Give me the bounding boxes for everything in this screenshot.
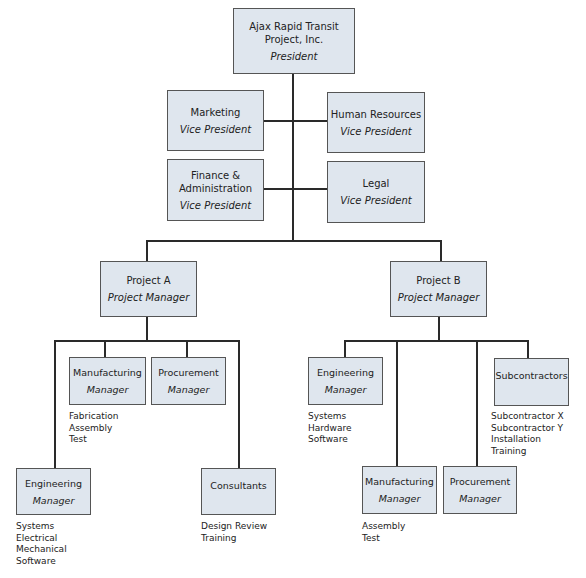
node-project-a: Project A Project Manager — [100, 261, 197, 317]
node-project-b: Project B Project Manager — [390, 261, 487, 317]
notes-b-subcontractors: Subcontractor X Subcontractor Y Installa… — [491, 411, 564, 457]
node-b-manufacturing: Manufacturing Manager — [362, 466, 437, 514]
connector-b-sub — [527, 340, 529, 358]
note-item: Assembly — [362, 521, 405, 533]
node-a-engineering: Engineering Manager — [16, 468, 91, 515]
notes-b-manufacturing: Assembly Test — [362, 521, 405, 544]
connector-b-stem — [438, 316, 440, 341]
node-role: President — [270, 50, 317, 63]
node-name: Human Resources — [331, 108, 421, 121]
node-name: Subcontractors — [495, 369, 567, 382]
connector-a-eng — [54, 340, 56, 468]
note-item: Test — [362, 533, 405, 545]
connector-b-bar — [344, 340, 529, 342]
node-name: Legal — [363, 177, 390, 190]
connector-project-bar — [146, 240, 442, 242]
note-item: Mechanical — [16, 544, 67, 556]
node-b-procurement: Procurement Manager — [443, 466, 517, 514]
note-item: Systems — [308, 411, 351, 423]
node-name: Administration — [179, 182, 252, 195]
node-marketing: Marketing Vice President — [167, 90, 264, 151]
node-b-subcontractors: Subcontractors — [494, 358, 569, 406]
note-item: Software — [16, 556, 67, 568]
node-name: Manufacturing — [73, 366, 142, 379]
connector-a-mfg — [104, 340, 106, 357]
node-role: Manager — [33, 494, 75, 507]
node-role: Project Manager — [108, 291, 190, 304]
node-human-resources: Human Resources Vice President — [327, 92, 425, 153]
node-name: Procurement — [158, 366, 219, 379]
node-role: Vice President — [180, 199, 252, 212]
node-a-consultants: Consultants — [201, 468, 276, 515]
node-role: Project Manager — [398, 291, 480, 304]
node-name: Finance & — [191, 169, 240, 182]
node-role: Manager — [379, 492, 421, 505]
note-item: Software — [308, 434, 351, 446]
notes-b-engineering: Systems Hardware Software — [308, 411, 351, 446]
node-role: Manager — [87, 383, 129, 396]
node-role: Manager — [168, 383, 210, 396]
connector-marketing — [263, 120, 293, 122]
notes-a-consultants: Design Review Training — [201, 521, 267, 544]
note-item: Hardware — [308, 423, 351, 435]
node-role: Vice President — [340, 194, 412, 207]
node-b-engineering: Engineering Manager — [308, 357, 383, 405]
connector-a-cons — [238, 340, 240, 468]
connector-a-proc — [186, 340, 188, 357]
note-item: Installation — [491, 434, 564, 446]
connector-trunk — [292, 73, 294, 241]
node-name: Project B — [416, 274, 460, 287]
connector-a-stem — [146, 316, 148, 341]
node-name: Ajax Rapid Transit — [249, 20, 338, 33]
node-finance-administration: Finance & Administration Vice President — [167, 159, 264, 221]
node-role: Manager — [325, 383, 367, 396]
note-item: Subcontractor Y — [491, 423, 564, 435]
node-role: Manager — [459, 492, 501, 505]
node-name: Engineering — [25, 477, 82, 490]
connector-project-a — [146, 240, 148, 261]
note-item: Subcontractor X — [491, 411, 564, 423]
connector-b-proc — [476, 340, 478, 466]
note-item: Design Review — [201, 521, 267, 533]
connector-project-b — [440, 240, 442, 261]
node-role: Vice President — [340, 125, 412, 138]
connector-a-bar — [54, 340, 240, 342]
node-legal: Legal Vice President — [327, 161, 425, 223]
note-item: Assembly — [69, 423, 118, 435]
note-item: Electrical — [16, 533, 67, 545]
connector-legal — [293, 188, 328, 190]
connector-hr — [293, 120, 328, 122]
node-president: Ajax Rapid Transit Project, Inc. Preside… — [233, 8, 355, 74]
node-name: Consultants — [210, 479, 266, 492]
node-name: Manufacturing — [365, 475, 434, 488]
notes-a-manufacturing: Fabrication Assembly Test — [69, 411, 118, 446]
note-item: Training — [201, 533, 267, 545]
node-name: Engineering — [317, 366, 374, 379]
node-name: Procurement — [450, 475, 511, 488]
note-item: Test — [69, 434, 118, 446]
node-name: Project, Inc. — [265, 33, 324, 46]
note-item: Systems — [16, 521, 67, 533]
connector-finance — [263, 188, 293, 190]
node-name: Marketing — [191, 106, 241, 119]
note-item: Fabrication — [69, 411, 118, 423]
connector-b-eng — [344, 340, 346, 357]
node-role: Vice President — [180, 123, 252, 136]
node-a-procurement: Procurement Manager — [151, 357, 226, 405]
connector-b-mfg — [396, 340, 398, 466]
note-item: Training — [491, 446, 564, 458]
notes-a-engineering: Systems Electrical Mechanical Software — [16, 521, 67, 567]
node-name: Project A — [126, 274, 170, 287]
node-a-manufacturing: Manufacturing Manager — [69, 357, 146, 405]
